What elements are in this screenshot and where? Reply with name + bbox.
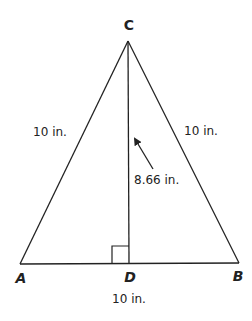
measure-side-ac: 10 in. [33,125,67,139]
measure-altitude-cd: 8.66 in. [134,173,179,187]
vertex-label-a: A [15,270,27,286]
measure-base-ab: 10 in. [112,292,146,306]
side-ab [20,263,239,264]
side-bc [128,41,239,263]
vertex-label-d: D [124,269,136,285]
measure-side-bc: 10 in. [184,124,218,138]
side-ac [20,41,128,264]
altitude-cd [128,41,129,263]
right-angle-marker [112,246,129,263]
vertex-label-c: C [124,17,134,33]
altitude-arrow-icon [135,139,153,169]
vertex-label-b: B [233,268,244,284]
triangle-diagram: C A D B 10 in. 10 in. 8.66 in. 10 in. [0,0,252,321]
